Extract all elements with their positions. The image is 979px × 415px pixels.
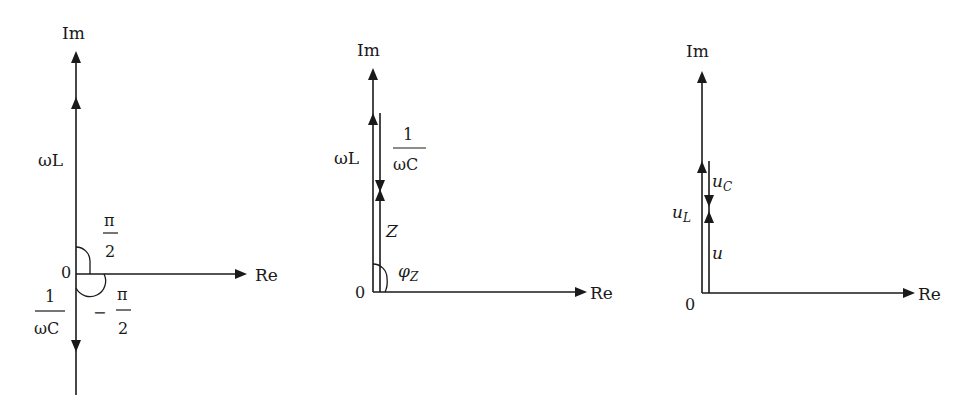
origin-label: 0	[61, 263, 71, 282]
omega-c-numerator: 1	[45, 287, 55, 306]
u-label: u	[712, 243, 723, 263]
re-label: Re	[918, 284, 941, 304]
angle-arc-negative	[76, 274, 106, 297]
omega-l-label: ωL	[334, 148, 359, 168]
origin-label: 0	[685, 295, 695, 314]
re-axis-arrowhead	[903, 288, 915, 298]
re-label: Re	[255, 265, 278, 285]
uc-label: uC	[712, 171, 732, 194]
im-label: Im	[357, 40, 380, 60]
omega-l-arrowhead	[71, 97, 81, 109]
diagram-impedance: Im Re 0 ωL 1 ωC Z φZ	[334, 40, 613, 303]
pi-numerator: π	[104, 211, 115, 230]
re-axis-arrowhead	[575, 287, 587, 297]
ul-arrowhead	[697, 161, 707, 173]
angle-arc-positive	[76, 247, 90, 274]
neg-pi-denominator: 2	[118, 319, 128, 338]
minus-sign: −	[93, 303, 106, 322]
omega-l-arrowhead	[368, 113, 378, 125]
uc-arrowhead	[704, 195, 714, 207]
origin-label: 0	[355, 283, 365, 302]
impedance-arrowhead	[375, 189, 385, 201]
omega-c-denominator: ωC	[34, 319, 59, 338]
re-label: Re	[590, 283, 613, 303]
omega-c-arrowhead	[71, 340, 81, 352]
im-axis-arrowhead	[71, 51, 81, 63]
im-label: Im	[686, 41, 709, 61]
im-axis-arrowhead	[697, 71, 707, 83]
diagram-reactances: Im Re 0 ωL 1 ωC π 2 − π 2	[34, 23, 278, 395]
im-label: Im	[62, 23, 85, 43]
impedance-label: Z	[385, 221, 399, 241]
phasor-diagrams: Im Re 0 ωL 1 ωC π 2 − π 2 Im Re 0 ωL 1 ω…	[0, 0, 979, 415]
pi-denominator: 2	[105, 242, 115, 261]
omega-c-numerator: 1	[403, 125, 413, 144]
re-axis-arrowhead	[235, 269, 247, 279]
omega-l-label: ωL	[38, 150, 63, 170]
phi-label: φZ	[398, 261, 419, 284]
diagram-voltages: Im Re 0 uC uL u	[672, 41, 941, 314]
ul-label: uL	[672, 202, 691, 225]
u-arrowhead	[704, 211, 714, 223]
omega-c-denominator: ωC	[393, 155, 418, 174]
im-axis-arrowhead	[368, 68, 378, 80]
neg-pi-numerator: π	[117, 285, 128, 304]
